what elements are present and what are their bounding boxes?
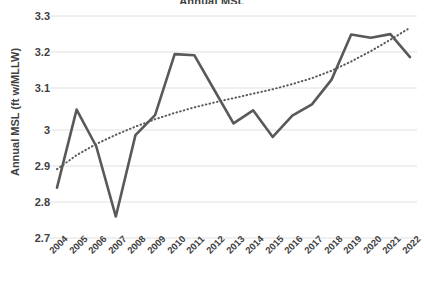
gridlines	[50, 16, 417, 238]
trendline	[57, 28, 410, 169]
data-series-line	[57, 34, 410, 216]
chart-container: Annual MSL Annual MSL (ft w/MLLW) 3.3 3.…	[0, 0, 424, 284]
